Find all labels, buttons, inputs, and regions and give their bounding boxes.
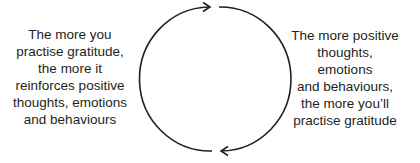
left-caption-line: the more it bbox=[0, 60, 140, 77]
left-caption-line: and behaviours bbox=[0, 111, 140, 128]
right-caption-line: practise gratitude bbox=[283, 112, 407, 129]
left-caption-line: reinforces positive bbox=[0, 77, 140, 94]
right-caption-line: and behaviours, bbox=[283, 78, 407, 95]
right-arc bbox=[219, 7, 291, 151]
left-caption-line: thoughts, emotions bbox=[0, 94, 140, 111]
left-caption-line: practise gratitude, bbox=[0, 43, 140, 60]
right-caption-line: emotions bbox=[283, 61, 407, 78]
left-caption: The more you practise gratitude, the mor… bbox=[0, 26, 140, 128]
left-arc bbox=[139, 7, 212, 151]
gratitude-cycle-diagram: The more you practise gratitude, the mor… bbox=[0, 0, 420, 163]
left-caption-line: The more you bbox=[0, 26, 140, 43]
right-caption-line: thoughts, bbox=[283, 44, 407, 61]
right-caption-line: The more positive bbox=[283, 27, 407, 44]
right-caption-line: the more you’ll bbox=[283, 95, 407, 112]
right-caption: The more positive thoughts, emotions and… bbox=[283, 27, 407, 129]
